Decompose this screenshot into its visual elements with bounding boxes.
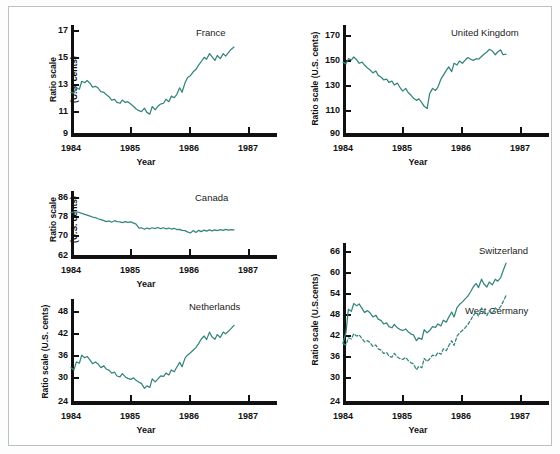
x-tick-label: 1985	[382, 143, 422, 153]
y-tick-label: 48	[318, 309, 340, 319]
x-tick-label: 1987	[500, 411, 540, 421]
chart-svg-france	[71, 25, 277, 137]
y-tick-label: 24	[46, 396, 68, 406]
x-tick-label: 1986	[169, 143, 209, 153]
y-tick-label: 13	[44, 79, 68, 89]
x-tick-label: 1984	[51, 411, 91, 421]
y-tick-label: 15	[44, 52, 68, 62]
chart-svg-uk	[343, 25, 549, 137]
chart-panel-netherlands: Ratio scale (U.S. cents) 48 42 36 30 24 …	[25, 297, 277, 447]
series-line-netherlands	[71, 325, 234, 388]
x-axis-title: Year	[43, 279, 249, 289]
y-tick-label: 70	[46, 230, 68, 240]
series-line-west-germany	[343, 296, 506, 370]
x-tick-label: 1987	[228, 143, 268, 153]
y-tick-label: 36	[318, 351, 340, 361]
chart-svg-swiss	[343, 243, 549, 405]
y-tick-label: 42	[318, 330, 340, 340]
plot-area-canada: 86 78 70 62 1984 1985 1986 1987 Year Can…	[71, 191, 277, 259]
x-tick-label: 1986	[441, 411, 481, 421]
y-tick-label: 90	[314, 128, 340, 138]
chart-panel-france: Ratio scale (U.S. cents) 17 15 13 11 9	[25, 23, 277, 173]
x-tick-label: 1986	[169, 411, 209, 421]
y-tick-label: 9	[44, 128, 68, 138]
chart-svg-canada	[71, 191, 277, 259]
figure-frame: Ratio scale (U.S. cents) 17 15 13 11 9	[8, 6, 552, 446]
y-tick-label: 48	[46, 306, 68, 316]
y-tick-label: 78	[46, 211, 68, 221]
series-line-united-kingdom	[343, 49, 506, 108]
y-tick-label: 17	[44, 25, 68, 35]
y-tick-label: 110	[314, 105, 340, 115]
y-tick-label: 36	[46, 350, 68, 360]
x-axis-title: Year	[315, 157, 521, 167]
chart-panel-switzerland-west-germany: Ratio scale (U.S.cents) 66 60 54 48 42 3…	[295, 241, 551, 447]
x-tick-label: 1987	[228, 411, 268, 421]
y-tick-label: 130	[314, 80, 340, 90]
x-tick-label: 1985	[110, 265, 150, 275]
x-axis-title: Year	[43, 425, 249, 435]
chart-panel-united-kingdom: Ratio scale (U.S. cents) 170 150 130 110…	[295, 23, 551, 173]
x-tick-label: 1986	[441, 143, 481, 153]
y-tick-label: 42	[46, 328, 68, 338]
x-tick-label: 1984	[51, 143, 91, 153]
plot-area-swiss: 66 60 54 48 42 36 30 24 1984 1985 1986 1…	[343, 243, 549, 405]
x-tick-label: 1984	[323, 411, 363, 421]
x-tick-label: 1986	[169, 265, 209, 275]
x-tick-label: 1985	[110, 411, 150, 421]
y-tick-label: 170	[314, 30, 340, 40]
chart-panel-canada: Ratio scale (U.S. cents) 86 78 70 62 198…	[25, 189, 277, 294]
y-tick-label: 24	[318, 396, 340, 406]
y-tick-label: 11	[44, 106, 68, 116]
y-tick-label: 150	[314, 55, 340, 65]
y-tick-label: 30	[46, 372, 68, 382]
series-line-france	[71, 47, 234, 114]
y-tick-label: 30	[318, 372, 340, 382]
series-line-canada	[71, 212, 234, 233]
x-tick-label: 1985	[110, 143, 150, 153]
y-tick-label: 62	[46, 250, 68, 260]
plot-area-uk: 170 150 130 110 90 1984 1985 1986 1987 Y…	[343, 25, 549, 137]
x-tick-label: 1985	[382, 411, 422, 421]
x-tick-label: 1984	[51, 265, 91, 275]
y-tick-label: 86	[46, 192, 68, 202]
plot-area-netherlands: 48 42 36 30 24 1984 1985 1986 1987 Year …	[71, 299, 277, 405]
x-axis-title: Year	[43, 157, 249, 167]
series-line-switzerland	[343, 263, 506, 343]
figure-page: Ratio scale (U.S. cents) 17 15 13 11 9	[0, 0, 560, 454]
x-axis-title: Year	[315, 425, 521, 435]
x-tick-label: 1987	[228, 265, 268, 275]
chart-svg-netherlands	[71, 299, 277, 405]
y-tick-label: 60	[318, 267, 340, 277]
x-tick-label: 1984	[323, 143, 363, 153]
plot-area-france: 17 15 13 11 9 1984 1985 1986 1987 Year F…	[71, 25, 277, 137]
y-tick-label: 66	[318, 246, 340, 256]
y-tick-label: 54	[318, 288, 340, 298]
x-tick-label: 1987	[500, 143, 540, 153]
